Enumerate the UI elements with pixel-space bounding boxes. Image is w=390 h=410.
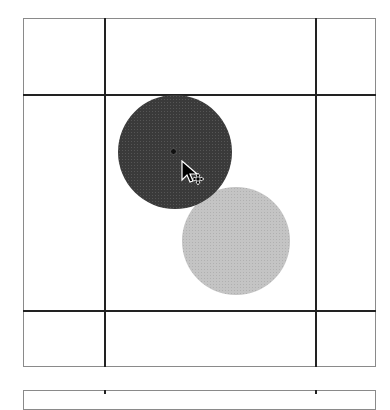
center-point-marker: [170, 148, 177, 155]
move-cursor-icon: [180, 160, 210, 190]
next-frame-line-right: [315, 390, 317, 394]
grid-line-vertical-right: [315, 18, 317, 367]
grid-line-vertical-left: [104, 18, 106, 367]
grid-line-horizontal-top: [23, 94, 376, 96]
next-frame-line-left: [104, 390, 106, 394]
grid-line-horizontal-bottom: [23, 310, 376, 312]
next-frame-partial: [23, 390, 376, 410]
